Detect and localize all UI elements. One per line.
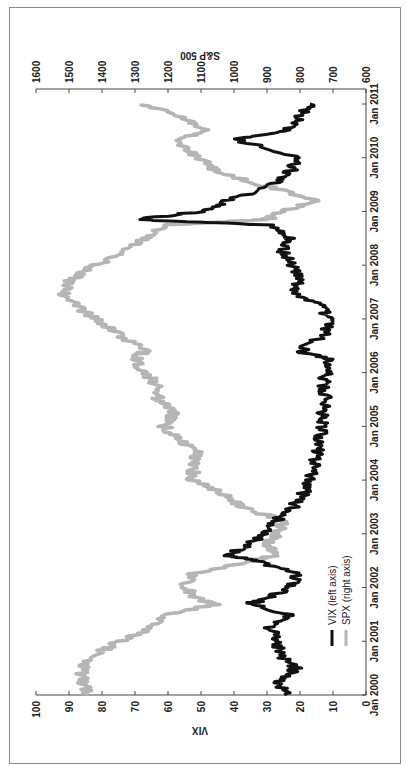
spx-tick-label: 900 xyxy=(262,66,273,83)
legend: VIX (left axis) SPX (right axis) xyxy=(327,556,352,646)
vix-tick-label: 80 xyxy=(97,701,108,713)
spx-tick-label: 800 xyxy=(295,66,306,83)
vix-tick-label: 50 xyxy=(196,701,207,713)
spx-tick-label: 700 xyxy=(328,66,339,83)
time-tick-label: Jan 2003 xyxy=(369,512,380,555)
time-tick-label: Jan 2007 xyxy=(369,297,380,340)
spx-tick-label: 1500 xyxy=(64,60,75,83)
spx-tick-label: 600 xyxy=(361,66,372,83)
time-tick-label: Jan 2009 xyxy=(369,190,380,233)
rotated-line-chart: 0102030405060708090100600700800900100011… xyxy=(0,0,407,766)
vix-tick-label: 20 xyxy=(295,701,306,713)
spx-axis-title: S&P 500 xyxy=(180,50,220,61)
vix-tick-label: 60 xyxy=(163,701,174,713)
vix-tick-label: 40 xyxy=(229,701,240,713)
vix-tick-label: 70 xyxy=(130,701,141,713)
spx-tick-label: 1600 xyxy=(31,60,42,83)
time-tick-label: Jan 2002 xyxy=(369,566,380,609)
spx-tick-label: 1100 xyxy=(196,61,207,83)
time-tick-label: Jan 2004 xyxy=(369,459,380,502)
vix-axis-title: VIX xyxy=(192,725,208,736)
legend-vix-label: VIX (left axis) xyxy=(327,566,338,625)
spx-series-line xyxy=(59,104,319,695)
time-tick-label: Jan 2011 xyxy=(369,83,380,125)
time-tick-label: Jan 2008 xyxy=(369,244,380,287)
time-tick-label: Jan 2000 xyxy=(369,673,380,716)
vix-tick-label: 90 xyxy=(64,701,75,713)
time-tick-label: Jan 2005 xyxy=(369,405,380,448)
spx-tick-label: 1000 xyxy=(229,60,240,83)
spx-tick-label: 1200 xyxy=(163,60,174,83)
time-tick-label: Jan 2006 xyxy=(369,351,380,394)
time-tick-label: Jan 2010 xyxy=(369,136,380,179)
vix-series-line xyxy=(140,104,333,695)
time-tick-label: Jan 2001 xyxy=(369,620,380,663)
axis-ticks xyxy=(36,89,366,695)
legend-spx-label: SPX (right axis) xyxy=(341,556,352,625)
spx-tick-label: 1400 xyxy=(97,60,108,83)
vix-tick-label: 10 xyxy=(328,701,339,713)
vix-tick-label: 100 xyxy=(31,701,42,718)
vix-tick-label: 30 xyxy=(262,701,273,713)
spx-tick-label: 1300 xyxy=(130,60,141,83)
